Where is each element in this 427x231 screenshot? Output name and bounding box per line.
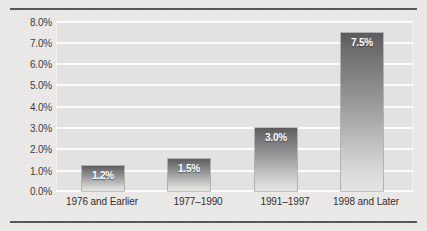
y-axis-tick-8: 8.0% (8, 17, 52, 28)
bar-1977-1990[interactable]: 1.5% (168, 159, 210, 191)
plot-area: 1.2% 1.5% 3.0% 7.5% (56, 22, 413, 191)
bottom-rule (10, 221, 417, 223)
y-axis-tick-1: 1.0% (8, 166, 52, 177)
x-axis-label-1998-and-later: 1998 and Later (301, 196, 427, 207)
bar-value-label-2: 3.0% (255, 132, 297, 143)
top-rule (10, 8, 417, 10)
y-axis-tick-5: 5.0% (8, 80, 52, 91)
y-axis-tick-3: 3.0% (8, 123, 52, 134)
gridline-8 (56, 21, 413, 23)
y-axis-tick-4: 4.0% (8, 102, 52, 113)
bar-1998-and-later[interactable]: 7.5% (341, 33, 383, 191)
y-axis-tick-6: 6.0% (8, 59, 52, 70)
bar-value-label-3: 7.5% (341, 37, 383, 48)
y-axis-tick-2: 2.0% (8, 144, 52, 155)
bar-value-label-0: 1.2% (82, 170, 124, 181)
bar-1991-1997[interactable]: 3.0% (255, 128, 297, 191)
bar-1976-and-earlier[interactable]: 1.2% (82, 166, 124, 191)
y-axis-tick-7: 7.0% (8, 38, 52, 49)
chart-figure: 8.0% 7.0% 6.0% 5.0% 4.0% 3.0% 2.0% 1.0% … (0, 0, 427, 231)
bar-value-label-1: 1.5% (168, 163, 210, 174)
